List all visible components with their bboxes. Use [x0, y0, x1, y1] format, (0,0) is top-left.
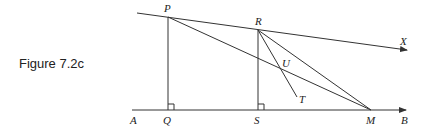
label-a: A	[129, 114, 137, 126]
right-angle-q-icon	[168, 104, 174, 110]
segment-rm	[258, 30, 371, 110]
label-b: B	[401, 114, 408, 126]
segment-rt	[258, 30, 297, 97]
label-q: Q	[163, 114, 171, 126]
label-p: P	[163, 2, 171, 14]
label-u: U	[282, 57, 291, 69]
label-t: T	[299, 93, 306, 105]
label-s: S	[254, 114, 260, 126]
label-x: X	[399, 35, 408, 47]
line-px	[137, 13, 407, 50]
right-angle-s-icon	[258, 104, 264, 110]
label-m: M	[365, 114, 376, 126]
geometry-diagram: P R X U T A Q S M B	[0, 0, 429, 134]
label-r: R	[254, 15, 262, 27]
